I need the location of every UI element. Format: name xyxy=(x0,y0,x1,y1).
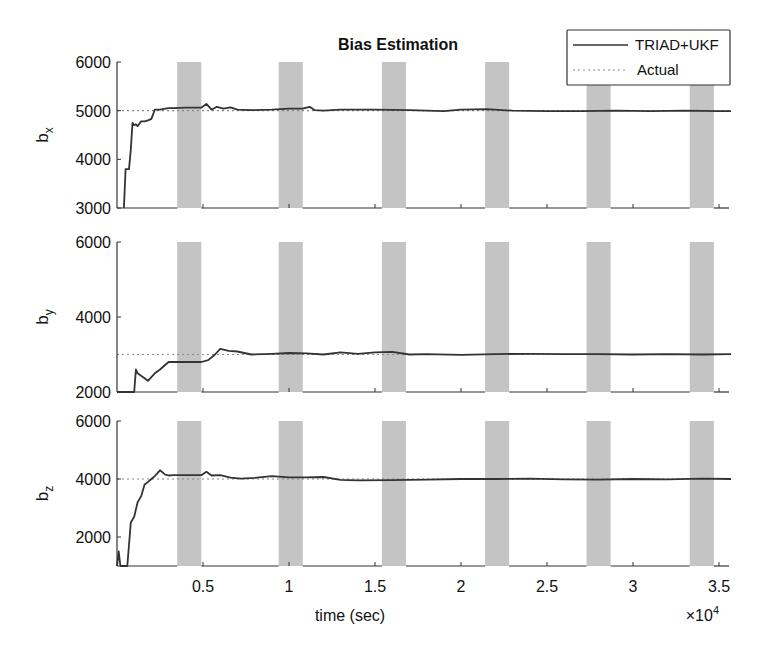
y-axis-label: bz xyxy=(33,486,56,501)
y-tick-label: 2000 xyxy=(75,529,111,546)
y-tick-label: 6000 xyxy=(75,234,111,251)
y-tick-label: 6000 xyxy=(75,413,111,430)
shaded-interval xyxy=(279,242,303,392)
x-multiplier: ×104 xyxy=(686,604,719,624)
y-axis-label: by xyxy=(33,309,56,324)
legend-label-triad-ukf: TRIAD+UKF xyxy=(635,36,719,53)
y-tick-label: 4000 xyxy=(75,309,111,326)
y-tick-label: 2000 xyxy=(75,384,111,401)
shaded-interval xyxy=(279,62,303,208)
shaded-interval xyxy=(690,421,714,566)
x-tick-label: 1.5 xyxy=(364,578,386,595)
shaded-interval xyxy=(587,242,611,392)
panel-by: 200040006000by xyxy=(33,234,731,401)
y-tick-label: 4000 xyxy=(75,471,111,488)
x-tick-label: 2 xyxy=(457,578,466,595)
x-tick-label: 3.5 xyxy=(708,578,730,595)
shaded-interval xyxy=(177,62,201,208)
legend: TRIAD+UKF Actual xyxy=(567,30,730,85)
y-tick-label: 6000 xyxy=(75,54,111,71)
shaded-interval xyxy=(279,421,303,566)
y-tick-label: 3000 xyxy=(75,200,111,217)
chart-title: Bias Estimation xyxy=(338,36,458,53)
y-axis-label: bx xyxy=(33,127,56,142)
shaded-interval xyxy=(177,242,201,392)
shaded-interval xyxy=(177,421,201,566)
triad-ukf-line xyxy=(117,470,731,566)
x-axis-label: time (sec) xyxy=(315,607,385,624)
shaded-interval xyxy=(382,62,406,208)
shaded-interval xyxy=(485,62,509,208)
shaded-interval xyxy=(485,242,509,392)
bias-estimation-chart: Bias Estimation 3000400050006000bx200040… xyxy=(0,0,769,660)
shaded-interval xyxy=(587,421,611,566)
triad-ukf-line xyxy=(124,104,731,208)
panel-bz: 200040006000bz xyxy=(33,413,731,566)
triad-ukf-line xyxy=(117,349,731,392)
shaded-interval xyxy=(382,421,406,566)
x-tick-label: 1 xyxy=(285,578,294,595)
x-axis: 0.511.522.533.5 xyxy=(192,578,730,595)
shaded-interval xyxy=(485,421,509,566)
y-tick-label: 5000 xyxy=(75,103,111,120)
shaded-interval xyxy=(690,242,714,392)
y-tick-label: 4000 xyxy=(75,151,111,168)
x-tick-label: 2.5 xyxy=(536,578,558,595)
x-tick-label: 0.5 xyxy=(192,578,214,595)
shaded-interval xyxy=(382,242,406,392)
legend-label-actual: Actual xyxy=(637,61,679,78)
x-tick-label: 3 xyxy=(629,578,638,595)
panels: 3000400050006000bx200040006000by20004000… xyxy=(33,54,731,566)
